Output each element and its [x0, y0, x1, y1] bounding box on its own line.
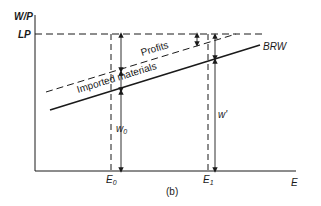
- brw-label: BRW: [263, 41, 288, 52]
- e0-label: E0: [106, 174, 117, 186]
- e1-label: E1: [203, 174, 214, 186]
- y-axis-label: W/P: [14, 11, 33, 22]
- brw-line: [50, 45, 260, 110]
- svg-text:E1: E1: [203, 174, 214, 186]
- lp-tick-label: LP: [18, 29, 31, 40]
- figure-caption: (b): [166, 186, 178, 197]
- diagram-canvas: W/P LP E BRW Profits Imported materials …: [0, 0, 321, 206]
- profits-dashed-line: [46, 34, 236, 92]
- x-axis-label: E: [291, 177, 298, 188]
- svg-text:w0: w0: [116, 123, 127, 135]
- w1-label: w': [218, 109, 228, 120]
- profits-label: Profits: [139, 39, 169, 58]
- w0-label: w0: [116, 123, 127, 135]
- svg-text:E0: E0: [106, 174, 117, 186]
